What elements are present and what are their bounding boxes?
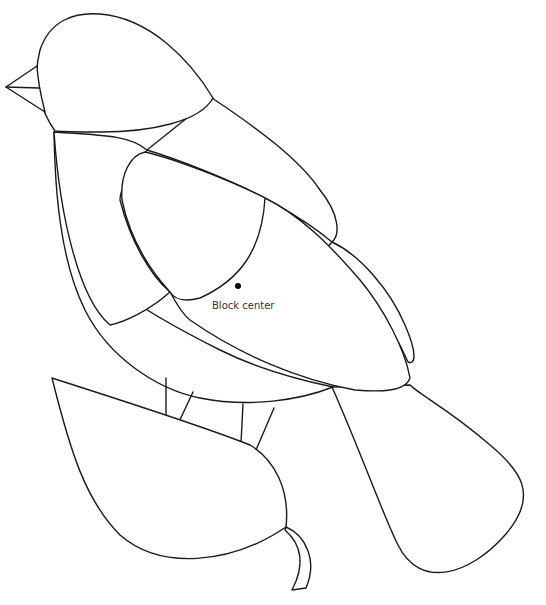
leaf-stem (285, 527, 311, 590)
head-piece (37, 14, 213, 132)
leg-left-front (178, 392, 193, 424)
block-center-marker-dot (235, 283, 241, 289)
leg-right-front (256, 408, 274, 450)
leaf-piece (52, 378, 287, 559)
beak-line (6, 87, 39, 88)
pattern-canvas: Block center (0, 0, 546, 605)
block-center-label: Block center (212, 300, 274, 311)
tail-piece (332, 385, 524, 573)
leg-right-back (241, 404, 243, 443)
